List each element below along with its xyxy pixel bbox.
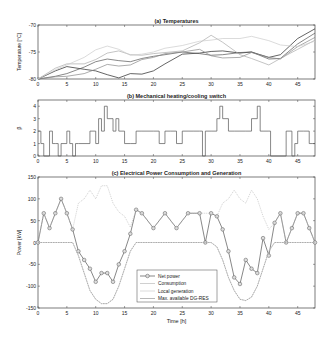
- data-marker: [59, 197, 63, 201]
- data-marker: [232, 276, 236, 280]
- data-marker: [261, 236, 265, 240]
- figure: (a) Temperatures051015202530354045-80-75…: [0, 0, 333, 346]
- x-tick-label: 10: [93, 310, 99, 316]
- x-tick-label: 30: [208, 310, 214, 316]
- x-tick-label: 0: [37, 158, 40, 164]
- data-marker: [123, 249, 127, 253]
- subplot-3: (c) Electrical Power Consumption and Gen…: [16, 170, 317, 324]
- x-tick-label: 20: [151, 158, 157, 164]
- legend-label: Consumption: [158, 281, 187, 286]
- data-marker: [134, 208, 138, 212]
- subplot-1: (a) Temperatures051015202530354045-80-75…: [16, 18, 315, 87]
- data-marker: [88, 267, 92, 271]
- y-tick-label: -100: [26, 283, 36, 289]
- data-marker: [48, 226, 52, 230]
- x-tick-label: 10: [93, 81, 99, 87]
- y-tick-label: 1: [33, 141, 36, 147]
- data-marker: [238, 282, 242, 286]
- y-tick-label: -75: [29, 49, 36, 55]
- y-tick-label: -50: [29, 261, 36, 267]
- subplot-2: (b) Mechanical heating/cooling switch051…: [16, 93, 315, 164]
- y-tick-label: -70: [29, 22, 36, 28]
- x-axis-label: Time [h]: [167, 318, 187, 324]
- data-marker: [82, 258, 86, 262]
- x-tick-label: 0: [37, 310, 40, 316]
- data-marker: [152, 226, 156, 230]
- plot-frame: [38, 25, 315, 79]
- x-tick-label: 30: [208, 158, 214, 164]
- x-tick-label: 25: [179, 310, 185, 316]
- x-tick-label: 40: [266, 81, 272, 87]
- legend: Net powerConsumptionLocal generationMax.…: [137, 270, 217, 302]
- y-axis-label: Power [kW]: [16, 229, 22, 255]
- x-tick-label: 35: [237, 81, 243, 87]
- x-tick-label: 45: [295, 158, 301, 164]
- x-tick-label: 15: [122, 81, 128, 87]
- chart-canvas: (a) Temperatures051015202530354045-80-75…: [0, 0, 333, 346]
- x-tick-label: 15: [122, 158, 128, 164]
- data-marker: [129, 232, 133, 236]
- data-marker: [117, 263, 121, 267]
- data-marker: [273, 221, 277, 225]
- y-axis-label: Temperature [°C]: [16, 32, 22, 70]
- subplot-title: (b) Mechanical heating/cooling switch: [127, 93, 227, 99]
- y-tick-label: 3: [33, 116, 36, 122]
- data-marker: [244, 258, 248, 262]
- subplot-title: (c) Electrical Power Consumption and Gen…: [112, 170, 242, 176]
- data-marker: [94, 280, 98, 284]
- x-tick-label: 30: [208, 81, 214, 87]
- y-axis-label: β: [16, 126, 22, 129]
- x-tick-label: 20: [151, 81, 157, 87]
- legend-label: Net power: [158, 274, 180, 279]
- legend-marker: [146, 274, 150, 278]
- x-tick-label: 20: [151, 310, 157, 316]
- y-tick-label: 2: [33, 128, 36, 134]
- y-tick-label: -80: [29, 76, 36, 82]
- data-marker: [250, 267, 254, 271]
- x-tick-label: 35: [237, 310, 243, 316]
- x-tick-label: 25: [179, 158, 185, 164]
- x-tick-label: 40: [266, 158, 272, 164]
- plot-frame: [38, 100, 315, 156]
- y-tick-label: 150: [28, 174, 37, 180]
- x-tick-label: 45: [295, 81, 301, 87]
- legend-label: Local generation: [158, 289, 194, 294]
- y-tick-label: 0: [33, 240, 36, 246]
- data-marker: [105, 271, 109, 275]
- x-tick-label: 15: [122, 310, 128, 316]
- data-marker: [71, 228, 75, 232]
- x-tick-label: 45: [295, 310, 301, 316]
- data-marker: [215, 215, 219, 219]
- x-tick-label: 10: [93, 158, 99, 164]
- subplot-title: (a) Temperatures: [154, 18, 198, 24]
- x-tick-label: 40: [266, 310, 272, 316]
- y-tick-label: 4: [33, 103, 36, 109]
- data-marker: [255, 271, 259, 275]
- y-tick-label: 0: [33, 153, 36, 159]
- data-marker: [290, 226, 294, 230]
- legend-label: Max. available DG-RES: [158, 296, 209, 301]
- y-tick-label: 50: [30, 218, 36, 224]
- x-tick-label: 5: [65, 158, 68, 164]
- x-tick-label: 5: [65, 81, 68, 87]
- data-marker: [221, 228, 225, 232]
- data-marker: [296, 211, 300, 215]
- x-tick-label: 0: [37, 81, 40, 87]
- y-tick-label: 100: [28, 196, 37, 202]
- data-marker: [111, 280, 115, 284]
- data-marker: [54, 211, 58, 215]
- data-marker: [307, 226, 311, 230]
- y-tick-label: -150: [26, 305, 36, 311]
- x-tick-label: 35: [237, 158, 243, 164]
- data-marker: [227, 249, 231, 253]
- data-marker: [100, 271, 104, 275]
- x-tick-label: 5: [65, 310, 68, 316]
- x-tick-label: 25: [179, 81, 185, 87]
